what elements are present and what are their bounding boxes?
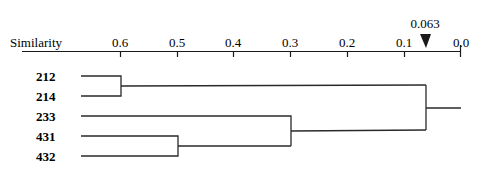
leaf-label: 233 <box>36 109 56 124</box>
threshold-marker-icon <box>420 34 431 48</box>
leaf-label: 432 <box>36 149 56 164</box>
branch-233-group-stem <box>291 130 426 131</box>
tick-label: 0.3 <box>282 35 298 50</box>
tick-label: 0.0 <box>453 35 469 50</box>
tick-labels: 0.6 0.5 0.4 0.3 0.2 0.1 0.0 <box>112 35 469 50</box>
tick-label: 0.4 <box>225 35 242 50</box>
tick-label: 0.2 <box>339 35 355 50</box>
tick-label: 0.1 <box>396 35 412 50</box>
leaf-label: 212 <box>36 69 56 84</box>
leaf-label: 214 <box>36 89 56 104</box>
branch-212-214 <box>81 76 121 96</box>
axis-label: Similarity <box>10 35 63 50</box>
branch-212-214-stem <box>121 85 426 86</box>
tick-label: 0.5 <box>169 35 185 50</box>
threshold-label: 0.063 <box>410 16 439 31</box>
tick-label: 0.6 <box>112 35 129 50</box>
leaf-labels: 212 214 233 431 432 <box>36 69 56 164</box>
dendrogram-chart: Similarity 0.6 0.5 0.4 0.3 0.2 0.1 0.0 0… <box>0 0 493 172</box>
leaf-label: 431 <box>36 129 56 144</box>
dendrogram-branches <box>81 76 461 156</box>
branch-431-432 <box>81 136 178 156</box>
branch-233 <box>81 116 291 146</box>
